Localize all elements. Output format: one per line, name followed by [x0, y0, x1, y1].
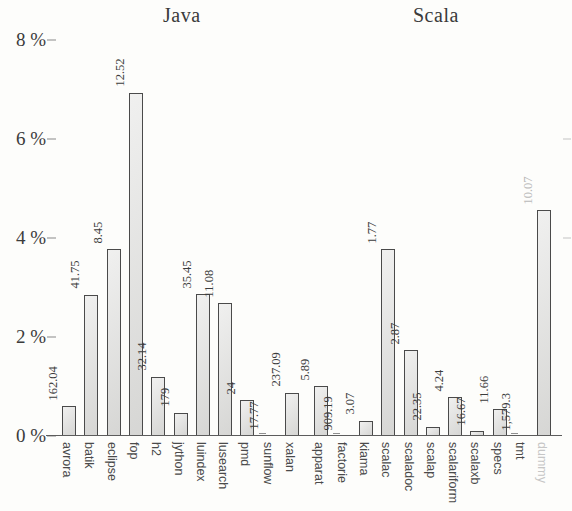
bar-value-scalariform: 4.24: [433, 370, 446, 392]
bar-fop[interactable]: [129, 93, 143, 436]
x-axis-label-tmt: tmt: [514, 442, 527, 459]
bar-group-scalac[interactable]: 1.77: [377, 40, 399, 436]
bar-value-kiama: 3.07: [343, 393, 356, 415]
bar-value-eclipse: 8.45: [91, 222, 104, 244]
x-label-slot-scalac: scalac: [377, 440, 399, 511]
bar-chart: Java Scala 0 %2 %4 %6 %8 % 162.0441.758.…: [0, 0, 572, 511]
bar-value-dummy: 10.07: [522, 176, 535, 204]
bar-eclipse[interactable]: [107, 249, 121, 436]
x-label-slot-fop: fop: [125, 440, 147, 511]
x-label-slot-jython: jython: [170, 440, 192, 511]
x-axis-label-luindex: luindex: [194, 442, 207, 482]
x-label-slot-luindex: luindex: [192, 440, 214, 511]
bar-lusearch[interactable]: [218, 303, 232, 436]
bar-group-eclipse[interactable]: 8.45: [103, 40, 125, 436]
x-axis-label-scaladoc: scaladoc: [402, 442, 415, 491]
x-axis-label-jython: jython: [172, 442, 185, 475]
x-axis-label-scalariform: scalariform: [447, 442, 460, 503]
x-label-slot-factorie: factorie: [333, 440, 355, 511]
bar-group-specs[interactable]: 11.66: [489, 40, 511, 436]
bar-value-fop: 12.52: [113, 59, 126, 87]
x-axis-label-h2: h2: [150, 442, 163, 456]
x-label-slot-h2: h2: [147, 440, 169, 511]
bar-luindex[interactable]: [196, 294, 210, 436]
x-axis-label-pmd: pmd: [239, 442, 252, 466]
bar-group-tmt[interactable]: 1,579.3: [511, 40, 533, 436]
bar-dummy[interactable]: [537, 210, 551, 436]
x-axis-label-sunflow: sunflow: [261, 442, 274, 484]
y-axis-tick-mark-right: [563, 238, 571, 239]
x-axis-label-specs: specs: [491, 442, 504, 475]
bar-value-lusearch: 11.08: [203, 270, 216, 298]
bar-group-dummy[interactable]: 10.07: [533, 40, 555, 436]
bar-group-h2[interactable]: 32.14: [147, 40, 169, 436]
bar-value-tmt: 1,579.3: [500, 393, 513, 431]
bar-group-factorie[interactable]: 909.19: [333, 40, 355, 436]
x-axis-label-kiama: kiama: [357, 442, 370, 475]
y-axis-tick-mark-right: [563, 139, 571, 140]
x-label-slot-kiama: kiama: [355, 440, 377, 511]
group-title-scala: Scala: [413, 4, 459, 27]
x-label-slot-xalan: xalan: [281, 440, 303, 511]
x-label-slot-scalariform: scalariform: [444, 440, 466, 511]
x-label-slot-avrora: avrora: [58, 440, 80, 511]
bar-value-scaladoc: 2.87: [388, 323, 401, 345]
bar-value-scalac: 1.77: [366, 222, 379, 244]
bar-value-sunflow: 17.77: [247, 401, 260, 429]
bar-xalan[interactable]: [285, 393, 299, 436]
bar-group-luindex[interactable]: 35.45: [192, 40, 214, 436]
bar-value-luindex: 35.45: [180, 260, 193, 288]
y-axis-tick-mark: [47, 139, 56, 140]
x-label-slot-dummy: dummy: [533, 440, 555, 511]
bar-value-pmd: 24: [225, 382, 238, 395]
x-label-slot-eclipse: eclipse: [103, 440, 125, 511]
x-label-slot-lusearch: lusearch: [214, 440, 236, 511]
x-axis-baseline: [46, 435, 562, 437]
x-label-slot-pmd: pmd: [236, 440, 258, 511]
x-label-slot-sunflow: sunflow: [259, 440, 281, 511]
group-title-java: Java: [163, 4, 201, 27]
x-axis-label-eclipse: eclipse: [105, 442, 118, 481]
x-axis-label-factorie: factorie: [335, 442, 348, 483]
plot-area: 0 %2 %4 %6 %8 % 162.0441.758.4512.5232.1…: [56, 40, 562, 436]
x-axis-label-lusearch: lusearch: [217, 442, 230, 489]
x-axis-label-scalaxb: scalaxb: [469, 442, 482, 484]
bar-value-scalaxb: 16.67: [455, 397, 468, 425]
bar-value-jython: 179: [158, 388, 171, 407]
x-label-slot-tmt: tmt: [511, 440, 533, 511]
bar-group-scalariform[interactable]: 4.24: [444, 40, 466, 436]
bar-value-apparat: 5.89: [299, 358, 312, 380]
x-label-slot-specs: specs: [489, 440, 511, 511]
bar-group-apparat[interactable]: 5.89: [310, 40, 332, 436]
x-label-slot-scalap: scalap: [422, 440, 444, 511]
bar-jython[interactable]: [174, 413, 188, 436]
bar-value-specs: 11.66: [477, 376, 490, 404]
x-axis-category-labels: avrorabatikeclipsefoph2jythonluindexluse…: [56, 440, 562, 511]
x-label-slot-apparat: apparat: [310, 440, 332, 511]
bar-value-factorie: 909.19: [321, 396, 334, 430]
x-axis-label-avrora: avrora: [61, 442, 74, 477]
x-axis-label-xalan: xalan: [284, 442, 297, 472]
bar-group-pmd[interactable]: 24: [236, 40, 258, 436]
x-label-slot-scalaxb: scalaxb: [466, 440, 488, 511]
bar-group-avrora[interactable]: 162.04: [58, 40, 80, 436]
x-axis-label-scalap: scalap: [424, 442, 437, 478]
y-axis-tick-mark: [47, 337, 56, 338]
x-label-slot-scaladoc: scaladoc: [400, 440, 422, 511]
x-axis-label-fop: fop: [127, 442, 140, 459]
bar-group-scaladoc[interactable]: 2.87: [400, 40, 422, 436]
bar-value-avrora: 162.04: [47, 366, 60, 400]
bar-group-lusearch[interactable]: 11.08: [214, 40, 236, 436]
y-axis-tick-mark: [47, 238, 56, 239]
bar-group-jython[interactable]: 179: [170, 40, 192, 436]
bar-value-scalap: 22.35: [410, 392, 423, 420]
bar-value-h2: 32.14: [136, 342, 149, 370]
x-axis-label-dummy: dummy: [536, 442, 549, 483]
x-axis-label-batik: batik: [83, 442, 96, 468]
bar-value-batik: 41.75: [69, 261, 82, 289]
bar-value-xalan: 237.09: [270, 353, 283, 387]
bar-batik[interactable]: [84, 295, 98, 436]
bar-group-fop[interactable]: 12.52: [125, 40, 147, 436]
y-axis-tick-mark: [47, 40, 56, 41]
bar-avrora[interactable]: [62, 406, 76, 436]
